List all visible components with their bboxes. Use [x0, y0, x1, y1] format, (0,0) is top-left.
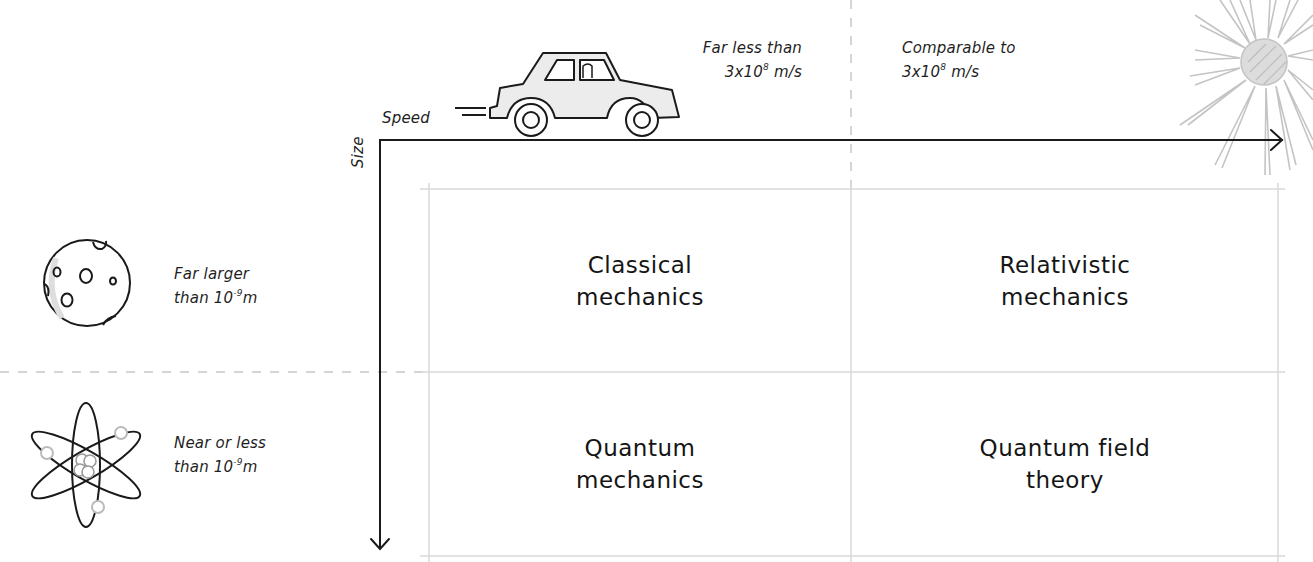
size-header-large: Far larger than 10-9m [174, 262, 334, 310]
cell-quantum-field-theory: Quantum field theory [852, 373, 1278, 555]
speed-axis-label: Speed [382, 106, 430, 130]
speed-value-unit: m/s [946, 63, 979, 81]
speed-header-light-line2: 3x108 m/s [902, 60, 1102, 84]
speed-header-light-line1: Comparable to [902, 36, 1102, 60]
size-value-unit: m [243, 289, 258, 307]
cell-title-line1: Classical [576, 249, 704, 281]
light-burst-icon [1180, 0, 1313, 175]
cell-title-line1: Relativistic [999, 249, 1130, 281]
speed-value-base: 3x10 [902, 63, 940, 81]
cell-title-line2: theory [980, 464, 1151, 496]
cell-classical-mechanics: Classical mechanics [430, 190, 850, 372]
size-header-small-line1: Near or less [174, 431, 334, 455]
size-header-large-line1: Far larger [174, 262, 334, 286]
cell-title-line2: mechanics [999, 281, 1130, 313]
cell-title-line1: Quantum field [980, 432, 1151, 464]
size-header-small-line2: than 10-9m [174, 455, 334, 479]
speed-header-slow: Far less than 3x108 m/s [650, 36, 802, 84]
cell-relativistic-mechanics: Relativistic mechanics [852, 190, 1278, 372]
size-value-unit: m [243, 458, 258, 476]
size-value-exponent: -9 [233, 288, 242, 298]
speed-axis [380, 140, 1282, 170]
size-header-small: Near or less than 10-9m [174, 431, 334, 479]
speed-value-base: 3x10 [725, 63, 763, 81]
size-value-base: than 10 [174, 458, 233, 476]
size-axis-label: Size [346, 136, 370, 168]
size-header-large-line2: than 10-9m [174, 286, 334, 310]
cell-quantum-mechanics: Quantum mechanics [430, 373, 850, 555]
speed-header-light: Comparable to 3x108 m/s [902, 36, 1102, 84]
car-icon [455, 53, 679, 136]
speed-header-slow-line1: Far less than [650, 36, 802, 60]
atom-icon [25, 403, 146, 527]
moon-icon [44, 240, 130, 326]
speed-header-slow-line2: 3x108 m/s [650, 60, 802, 84]
size-value-base: than 10 [174, 289, 233, 307]
cell-title-line1: Quantum [576, 432, 704, 464]
cell-title-line2: mechanics [576, 281, 704, 313]
size-value-exponent: -9 [233, 457, 242, 467]
cell-title-line2: mechanics [576, 464, 704, 496]
speed-value-unit: m/s [769, 63, 802, 81]
